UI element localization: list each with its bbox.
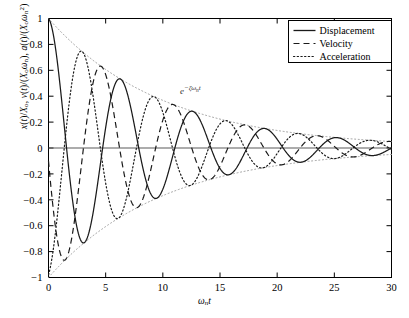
legend-label: Displacement (320, 25, 375, 36)
y-tick-label: 0.8 (29, 39, 42, 50)
x-tick-label: 25 (329, 282, 340, 293)
y-axis-label: x(t)/Xo, v(t)/(Xoωn), a(t)/(Xoωn2) (18, 0, 31, 166)
plot-canvas: 051015202530−1−0.8−0.6−0.4−0.200.20.40.6… (0, 0, 409, 318)
y-tick-label: 0.2 (29, 117, 42, 128)
y-tick-label: −0.6 (23, 220, 42, 231)
legend-label: Acceleration (320, 51, 371, 62)
y-tick-label: −1 (31, 272, 42, 283)
y-tick-label: 0.6 (29, 65, 42, 76)
y-tick-label: 0.4 (29, 91, 43, 102)
x-tick-label: 5 (103, 282, 108, 293)
x-axis-label: ωnt (0, 296, 409, 307)
legend[interactable]: DisplacementVelocityAcceleration (289, 21, 392, 63)
y-tick-label: 0 (37, 143, 42, 154)
legend-label: Velocity (320, 38, 353, 49)
chart-figure: 051015202530−1−0.8−0.6−0.4−0.200.20.40.6… (0, 0, 409, 318)
x-tick-label: 10 (158, 282, 169, 293)
y-tick-label: −0.8 (23, 246, 42, 257)
x-tick-label: 30 (386, 282, 397, 293)
y-tick-label: 1 (37, 13, 42, 24)
y-tick-label: −0.2 (23, 169, 42, 180)
y-tick-label: −0.4 (23, 195, 43, 206)
x-tick-label: 20 (272, 282, 283, 293)
x-tick-label: 15 (215, 282, 226, 293)
x-tick-label: 0 (46, 282, 51, 293)
